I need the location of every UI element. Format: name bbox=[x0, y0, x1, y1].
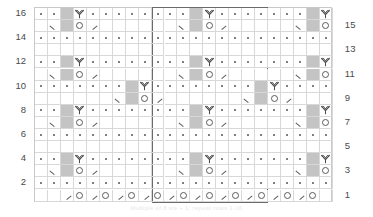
stitch-cell[interactable] bbox=[74, 141, 87, 153]
stitch-cell[interactable] bbox=[165, 141, 178, 153]
stitch-cell[interactable] bbox=[268, 190, 281, 202]
stitch-cell[interactable] bbox=[294, 177, 307, 189]
stitch-cell[interactable] bbox=[203, 165, 216, 177]
stitch-cell[interactable] bbox=[87, 93, 100, 105]
stitch-cell[interactable] bbox=[126, 69, 139, 81]
stitch-cell[interactable] bbox=[152, 165, 165, 177]
stitch-cell[interactable] bbox=[268, 69, 281, 81]
stitch-cell[interactable] bbox=[255, 32, 268, 44]
stitch-cell[interactable] bbox=[255, 153, 268, 165]
stitch-cell[interactable] bbox=[87, 165, 100, 177]
stitch-cell[interactable] bbox=[320, 165, 333, 177]
stitch-cell[interactable] bbox=[100, 56, 113, 68]
stitch-cell[interactable] bbox=[255, 165, 268, 177]
stitch-cell[interactable] bbox=[320, 105, 333, 117]
stitch-cell[interactable] bbox=[268, 20, 281, 32]
stitch-cell[interactable] bbox=[307, 81, 320, 93]
stitch-cell[interactable] bbox=[294, 69, 307, 81]
stitch-cell[interactable] bbox=[35, 153, 48, 165]
stitch-cell-no-stitch[interactable] bbox=[190, 20, 203, 32]
stitch-cell[interactable] bbox=[177, 93, 190, 105]
stitch-cell[interactable] bbox=[165, 8, 178, 20]
stitch-cell[interactable] bbox=[294, 117, 307, 129]
stitch-cell[interactable] bbox=[229, 32, 242, 44]
stitch-cell[interactable] bbox=[177, 69, 190, 81]
stitch-cell[interactable] bbox=[61, 44, 74, 56]
stitch-cell[interactable] bbox=[320, 81, 333, 93]
stitch-cell[interactable] bbox=[113, 141, 126, 153]
stitch-cell[interactable] bbox=[152, 141, 165, 153]
stitch-cell[interactable] bbox=[87, 81, 100, 93]
stitch-cell[interactable] bbox=[126, 44, 139, 56]
stitch-cell[interactable] bbox=[294, 44, 307, 56]
stitch-cell[interactable] bbox=[216, 32, 229, 44]
stitch-cell[interactable] bbox=[242, 190, 255, 202]
stitch-cell[interactable] bbox=[255, 69, 268, 81]
stitch-cell[interactable] bbox=[281, 165, 294, 177]
stitch-cell[interactable] bbox=[74, 153, 87, 165]
stitch-cell[interactable] bbox=[165, 153, 178, 165]
stitch-cell[interactable] bbox=[268, 93, 281, 105]
stitch-cell[interactable] bbox=[100, 105, 113, 117]
stitch-cell[interactable] bbox=[216, 56, 229, 68]
stitch-cell[interactable] bbox=[216, 81, 229, 93]
stitch-cell[interactable] bbox=[281, 105, 294, 117]
stitch-cell[interactable] bbox=[165, 177, 178, 189]
stitch-grid[interactable] bbox=[34, 7, 332, 202]
stitch-cell[interactable] bbox=[61, 93, 74, 105]
stitch-cell[interactable] bbox=[165, 56, 178, 68]
stitch-cell[interactable] bbox=[216, 129, 229, 141]
stitch-cell[interactable] bbox=[100, 8, 113, 20]
stitch-cell[interactable] bbox=[268, 44, 281, 56]
stitch-cell[interactable] bbox=[74, 81, 87, 93]
stitch-cell[interactable] bbox=[268, 32, 281, 44]
stitch-cell[interactable] bbox=[113, 153, 126, 165]
stitch-cell[interactable] bbox=[165, 32, 178, 44]
stitch-cell[interactable] bbox=[35, 81, 48, 93]
stitch-cell[interactable] bbox=[87, 32, 100, 44]
stitch-cell[interactable] bbox=[307, 141, 320, 153]
stitch-cell[interactable] bbox=[268, 8, 281, 20]
stitch-cell[interactable] bbox=[35, 93, 48, 105]
stitch-cell[interactable] bbox=[74, 190, 87, 202]
stitch-cell[interactable] bbox=[139, 190, 152, 202]
stitch-cell[interactable] bbox=[126, 56, 139, 68]
stitch-cell[interactable] bbox=[165, 105, 178, 117]
stitch-cell[interactable] bbox=[229, 129, 242, 141]
stitch-cell[interactable] bbox=[281, 177, 294, 189]
stitch-cell[interactable] bbox=[87, 44, 100, 56]
stitch-cell[interactable] bbox=[126, 32, 139, 44]
stitch-cell[interactable] bbox=[87, 141, 100, 153]
stitch-cell[interactable] bbox=[87, 69, 100, 81]
stitch-cell-no-stitch[interactable] bbox=[61, 56, 74, 68]
stitch-cell[interactable] bbox=[165, 117, 178, 129]
stitch-cell[interactable] bbox=[113, 177, 126, 189]
stitch-cell[interactable] bbox=[177, 141, 190, 153]
stitch-cell[interactable] bbox=[139, 105, 152, 117]
stitch-cell[interactable] bbox=[216, 117, 229, 129]
stitch-cell[interactable] bbox=[61, 177, 74, 189]
stitch-cell[interactable] bbox=[307, 93, 320, 105]
stitch-cell[interactable] bbox=[294, 32, 307, 44]
stitch-cell[interactable] bbox=[242, 56, 255, 68]
stitch-cell[interactable] bbox=[152, 81, 165, 93]
stitch-cell[interactable] bbox=[48, 69, 61, 81]
stitch-cell[interactable] bbox=[242, 81, 255, 93]
stitch-cell[interactable] bbox=[152, 69, 165, 81]
stitch-cell[interactable] bbox=[139, 177, 152, 189]
stitch-cell[interactable] bbox=[48, 165, 61, 177]
stitch-cell[interactable] bbox=[190, 32, 203, 44]
stitch-cell[interactable] bbox=[320, 177, 333, 189]
stitch-cell[interactable] bbox=[74, 177, 87, 189]
stitch-cell[interactable] bbox=[35, 117, 48, 129]
stitch-cell[interactable] bbox=[87, 117, 100, 129]
stitch-cell[interactable] bbox=[35, 190, 48, 202]
stitch-cell[interactable] bbox=[87, 129, 100, 141]
stitch-cell-no-stitch[interactable] bbox=[126, 93, 139, 105]
stitch-cell-no-stitch[interactable] bbox=[61, 165, 74, 177]
stitch-cell[interactable] bbox=[307, 190, 320, 202]
stitch-cell[interactable] bbox=[242, 141, 255, 153]
stitch-cell[interactable] bbox=[281, 153, 294, 165]
stitch-cell[interactable] bbox=[35, 32, 48, 44]
stitch-cell[interactable] bbox=[320, 32, 333, 44]
